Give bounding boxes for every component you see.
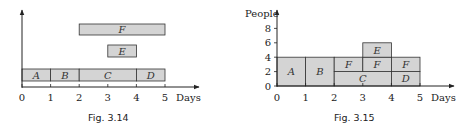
task-label: F (118, 24, 127, 35)
x-tick-label: 1 (47, 92, 53, 103)
x-tick-label: 3 (360, 92, 366, 103)
task-label: A (32, 70, 40, 81)
task-label: E (117, 46, 126, 57)
y-tick-label: 6 (265, 37, 271, 48)
fig314-x-axis-label: Days (176, 92, 201, 103)
x-tick-label: 0 (19, 92, 25, 103)
block-label: A (287, 66, 295, 77)
fig314-bars: ABCDEF (22, 24, 165, 81)
fig315-x-axis-label: Days (431, 92, 456, 103)
x-tick-label: 3 (105, 92, 111, 103)
y-tick-label: 2 (265, 66, 271, 77)
x-tick-label: 4 (388, 92, 394, 103)
y-tick-label: 8 (265, 23, 271, 34)
block-label: D (401, 73, 410, 84)
x-tick-label: 1 (302, 92, 308, 103)
block-label: F (373, 59, 382, 70)
x-tick-label: 2 (76, 92, 82, 103)
x-tick-label: 5 (162, 92, 168, 103)
block-label: F (344, 59, 353, 70)
figure-3-15: ABCFFEDF 012345 02468 People Days Fig. 3… (245, 8, 456, 123)
fig314-caption: Fig. 3.14 (88, 112, 129, 123)
diagram-canvas: ABCDEF 012345 Days Fig. 3.14 ABCFFEDF 01… (0, 0, 475, 131)
y-tick-label: 4 (265, 52, 271, 63)
y-tick-label: 0 (265, 81, 271, 92)
fig315-y-axis-label: People (245, 8, 279, 19)
x-tick-label: 5 (417, 92, 423, 103)
task-label: D (146, 70, 155, 81)
block-label: E (372, 45, 381, 56)
fig315-y-ticks: 02468 (265, 23, 277, 92)
fig315-caption: Fig. 3.15 (334, 112, 375, 123)
figure-3-14: ABCDEF 012345 Days Fig. 3.14 (19, 10, 201, 123)
x-tick-label: 0 (274, 92, 280, 103)
task-label: C (104, 70, 112, 81)
x-tick-label: 4 (133, 92, 139, 103)
task-label: B (60, 70, 68, 81)
block-label: C (359, 73, 367, 84)
block-label: F (401, 59, 410, 70)
x-tick-label: 2 (331, 92, 337, 103)
block-label: B (315, 66, 323, 77)
fig315-blocks: ABCFFEDF (277, 43, 420, 86)
